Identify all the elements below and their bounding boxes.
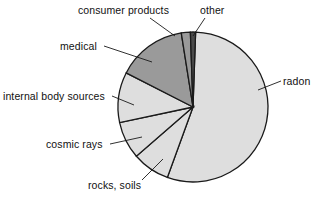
slice-label-internal-body-sources: internal body sources	[3, 91, 105, 102]
leader-line-consumer-products	[150, 18, 175, 36]
pie-slices-group	[118, 32, 268, 182]
pie-chart-figure: consumer products other medical internal…	[0, 0, 320, 199]
slice-label-radon: radon	[283, 76, 310, 87]
slice-label-medical: medical	[60, 41, 97, 52]
slice-label-rocks-soils: rocks, soils	[88, 180, 141, 191]
slice-label-consumer-products: consumer products	[78, 5, 169, 16]
slice-label-cosmic-rays: cosmic rays	[46, 139, 103, 150]
slice-label-other: other	[200, 5, 224, 16]
